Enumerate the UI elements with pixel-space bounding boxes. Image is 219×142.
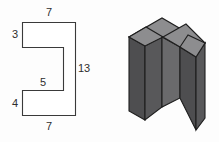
dimension-label-overall-height: 13 <box>78 62 90 74</box>
dimension-label-bottom-width: 7 <box>46 120 52 132</box>
dimension-label-notch-depth: 5 <box>40 76 46 88</box>
solid-inner-recess-face <box>162 37 180 107</box>
solid-left-column-side-face <box>129 37 145 120</box>
solid-right-column-front-face <box>196 43 205 130</box>
technical-drawing-figure: 7 3 5 13 4 7 <box>0 0 219 142</box>
dimension-label-top-width: 7 <box>46 6 52 18</box>
dimension-label-lower-left-height: 4 <box>12 97 18 109</box>
dimension-label-upper-left-height: 3 <box>12 28 18 40</box>
figure-canvas: 7 3 5 13 4 7 <box>0 0 219 142</box>
solid-left-column-front-face <box>145 37 162 120</box>
